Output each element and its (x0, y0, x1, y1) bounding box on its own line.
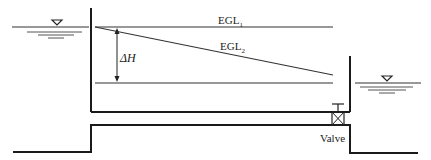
pipe-flow-diagram: EGL1 EGL2 ΔH Valve (0, 0, 431, 160)
delta-h-dimension: ΔH (115, 28, 138, 82)
pipe-bottom-and-ground-left (13, 125, 418, 153)
left-reservoir (12, 8, 91, 112)
arrow-down-icon (115, 76, 120, 82)
delta-h-label: ΔH (119, 51, 137, 65)
energy-grade-lines: EGL1 EGL2 (95, 14, 333, 83)
left-water-level-icon (52, 20, 62, 25)
valve-label: Valve (320, 132, 345, 144)
pipe (13, 112, 418, 153)
right-water-level-icon (382, 76, 392, 81)
right-reservoir (350, 56, 421, 112)
